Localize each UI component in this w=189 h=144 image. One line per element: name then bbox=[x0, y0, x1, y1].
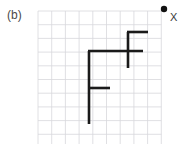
figure-panel: (b) X bbox=[0, 0, 189, 144]
grid-plot bbox=[0, 0, 189, 144]
point-x-dot bbox=[161, 6, 167, 12]
point-x-marker bbox=[161, 6, 167, 12]
polyline-path bbox=[88, 32, 148, 124]
point-x-label: X bbox=[170, 11, 177, 23]
